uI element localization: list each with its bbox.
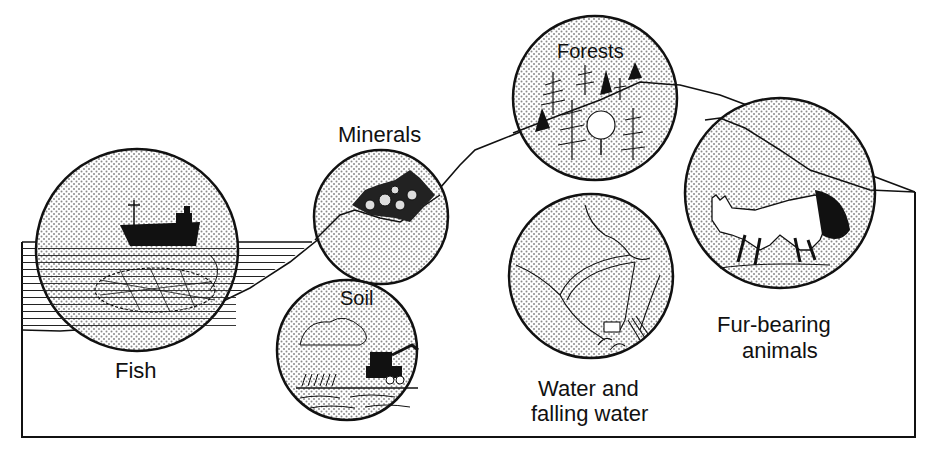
fur-animals-circle	[685, 98, 915, 288]
label-fur-line2: animals	[742, 338, 818, 364]
water-circle	[509, 194, 673, 358]
natural-resources-diagram	[0, 0, 938, 461]
label-water-line1: Water and	[538, 376, 639, 402]
label-soil: Soil	[340, 285, 373, 311]
label-fish: Fish	[115, 358, 157, 384]
label-water-line2: falling water	[531, 401, 648, 427]
fish-circle	[36, 149, 238, 351]
minerals-circle	[314, 150, 448, 284]
label-forests: Forests	[557, 38, 624, 64]
label-minerals: Minerals	[338, 122, 421, 148]
label-fur-line1: Fur-bearing	[717, 312, 831, 338]
